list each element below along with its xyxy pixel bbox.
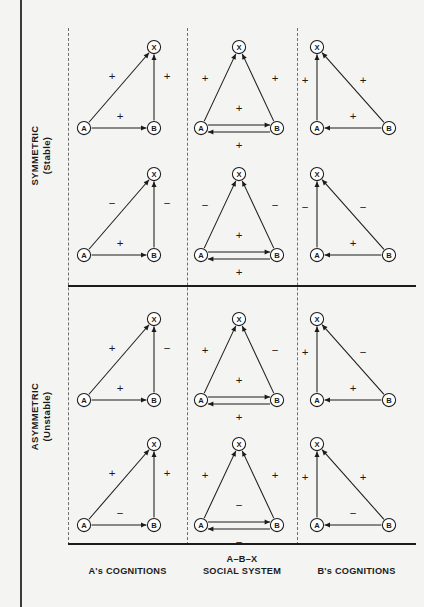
sign-a-b: + [236,102,243,114]
diagram-cell-r3-c0: ABX++− [68,425,180,545]
sign-b-x: + [360,74,367,86]
sign-b-x: − [272,344,279,356]
node-b: B [147,248,160,261]
sign-b-x: − [164,197,171,209]
node-label: X [236,170,241,179]
arrowhead [325,253,330,258]
triad-graph: ABX−−+ [297,155,409,275]
arrowhead [315,55,320,60]
arrowhead [152,327,157,332]
sign-a-x: + [109,70,116,82]
diagram-cell-r2-c2: ABX+−+ [297,300,409,420]
sign-b-x: + [272,72,279,84]
sign-b-x: − [360,346,367,358]
diagram-cell-r3-c2: ABX++− [297,425,409,545]
node-a: A [194,248,207,261]
diagram-cell-r0-c1: ABX++++ [187,28,299,148]
node-a: A [194,518,207,531]
node-b: B [147,121,160,134]
row-label-asymmetric: ASYMMETRIC (Unstable) [29,365,52,469]
sign-a-x: + [302,346,309,358]
triad-graph: ABX++−− [187,425,299,545]
sign-b-x: − [164,342,171,354]
node-label: B [274,396,280,405]
sign-a-b: + [117,382,124,394]
edge-line [204,326,236,393]
node-a: A [310,121,323,134]
node-x: X [147,40,160,53]
arrowhead [141,126,146,131]
arrowhead [265,395,270,400]
node-x: X [310,437,323,450]
node-label: A [81,124,87,133]
node-label: B [151,396,157,405]
node-label: X [151,43,156,52]
sign-b-a: + [236,139,243,151]
column-label-b-cognitions: B's COGNITIONS [297,566,416,578]
sign-a-b: + [236,229,243,241]
figure-left-rule [20,0,22,607]
node-label: B [386,521,392,530]
node-label: B [151,521,157,530]
arrowhead [208,402,213,407]
triad-graph: ABX+−+ [297,300,409,420]
node-a: A [194,393,207,406]
sign-a-x: − [302,201,309,213]
arrowhead [325,523,330,528]
node-label: A [198,251,204,260]
node-label: X [151,170,156,179]
node-label: A [81,251,87,260]
node-x: X [232,312,245,325]
arrowhead [265,250,270,255]
node-x: X [310,312,323,325]
node-label: X [236,440,241,449]
node-b: B [270,393,283,406]
node-label: A [198,396,204,405]
arrowhead [152,182,157,187]
sign-a-x: + [202,469,209,481]
node-label: B [386,251,392,260]
arrowhead [141,253,146,258]
node-label: A [314,124,320,133]
column-label-social-system-line1: A–B–X [187,554,297,566]
sign-a-x: + [302,471,309,483]
triad-graph: ABX+++ [297,28,409,148]
arrowhead [208,527,213,532]
node-a: A [77,518,90,531]
arrowhead [208,130,213,135]
sign-b-a: + [236,411,243,423]
sign-b-a: + [350,237,357,249]
node-a: A [310,518,323,531]
column-label-b-cognitions-line2: B's COGNITIONS [297,566,416,578]
arrowhead [152,452,157,457]
edge-line [242,181,274,248]
node-label: B [151,124,157,133]
node-b: B [147,393,160,406]
diagram-cell-r0-c0: ABX+++ [68,28,180,148]
sign-b-x: + [360,471,367,483]
diagram-cell-r2-c1: ABX+−++ [187,300,299,420]
node-a: A [77,121,90,134]
node-label: X [151,315,156,324]
sign-a-b: − [236,499,243,511]
node-x: X [147,167,160,180]
node-b: B [147,518,160,531]
diagram-cell-r2-c0: ABX+−+ [68,300,180,420]
sign-a-b: + [117,237,124,249]
node-b: B [270,248,283,261]
edge-line [204,451,236,518]
node-label: X [314,440,319,449]
sign-a-x: + [202,344,209,356]
section-divider-rule [68,285,416,287]
sign-b-a: − [350,507,357,519]
node-label: B [274,251,280,260]
node-label: A [198,521,204,530]
abx-balance-figure: SYMMETRIC (Stable) ASYMMETRIC (Unstable)… [0,0,424,607]
node-label: X [236,315,241,324]
triad-graph: ABX+−+ [68,300,180,420]
node-a: A [77,248,90,261]
edge-line [204,181,236,248]
node-b: B [382,393,395,406]
triad-graph: ABX++++ [187,28,299,148]
node-x: X [147,312,160,325]
